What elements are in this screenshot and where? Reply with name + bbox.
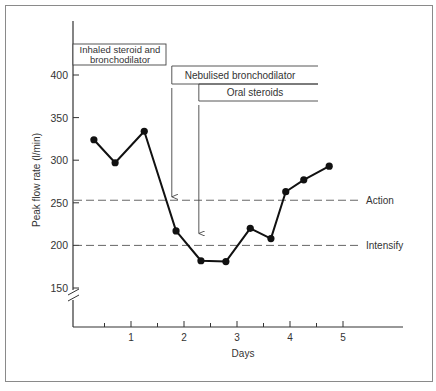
y-tick-label: 200 [50,239,68,251]
data-point [197,257,204,264]
axis-break-icon [68,289,79,301]
x-axis-label: Days [232,348,255,359]
reference-label-intensify: Intensify [366,240,403,251]
y-tick-label: 150 [50,282,68,294]
x-tick-label: 1 [128,332,134,343]
y-axis-label: Peak flow rate (l/min) [31,133,42,227]
data-point [247,225,254,232]
data-point [267,235,274,242]
data-point [326,163,333,170]
y-ticks: 150200250300350400 [50,69,79,294]
data-point [300,176,307,183]
reference-label-action: Action [366,195,394,206]
y-tick-label: 300 [50,154,68,166]
data-series [90,128,333,266]
data-point [141,128,148,135]
nebulised-bronchodilator-label: Nebulised bronchodilator [185,70,296,81]
inhaled-steroid-label: bronchodilator [90,54,150,65]
data-point [282,188,289,195]
data-point [222,258,229,265]
y-tick-label: 250 [50,197,68,209]
x-tick-label: 5 [340,332,346,343]
data-point [90,136,97,143]
x-tick-label: 2 [181,332,187,343]
data-point [112,159,119,166]
oral-steroids-label: Oral steroids [227,87,284,98]
x-tick-label: 4 [287,332,293,343]
series-line [94,131,329,261]
x-tick-label: 3 [234,332,240,343]
data-point [172,227,179,234]
y-tick-label: 400 [50,69,68,81]
peak-flow-chart: 150200250300350400 12345 Days Peak flow … [0,0,436,391]
x-ticks: 12345 [105,321,347,343]
y-tick-label: 350 [50,112,68,124]
